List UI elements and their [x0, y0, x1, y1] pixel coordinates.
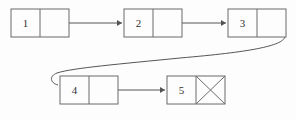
list-node-3[interactable]: 3 — [228, 9, 286, 37]
diagram-canvas: 1 2 3 4 5 — [0, 0, 296, 120]
list-node-1[interactable]: 1 — [11, 9, 69, 37]
arrowhead-into-node-5 — [160, 87, 165, 93]
arrowhead-into-node-3 — [221, 20, 226, 26]
list-node-4[interactable]: 4 — [60, 76, 118, 104]
node-3-label: 3 — [240, 17, 246, 29]
node-2-label: 2 — [136, 17, 142, 29]
linked-list-diagram: 1 2 3 4 5 — [0, 0, 296, 120]
arrowhead-into-node-2 — [117, 20, 122, 26]
node-1-label: 1 — [23, 17, 29, 29]
node-5-label: 5 — [179, 84, 185, 96]
list-node-5[interactable]: 5 — [167, 76, 225, 104]
node-4-label: 4 — [72, 84, 78, 96]
list-node-2[interactable]: 2 — [124, 9, 182, 37]
